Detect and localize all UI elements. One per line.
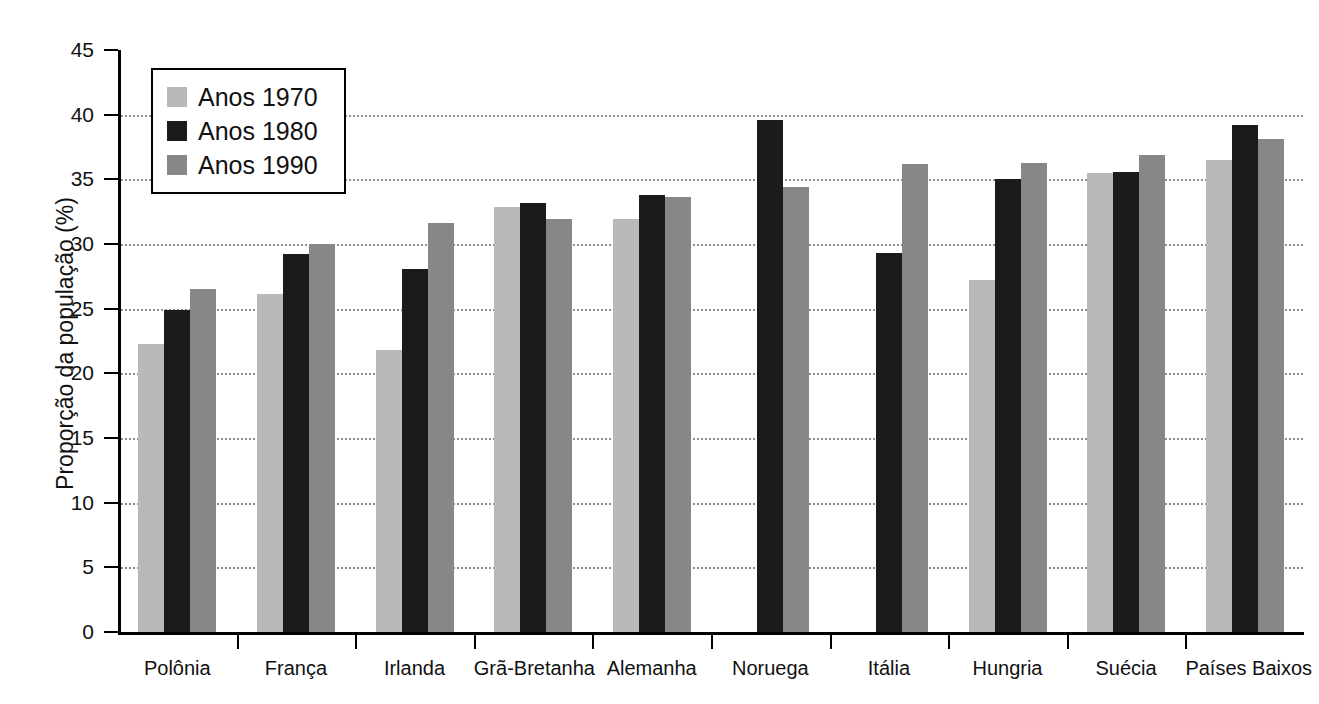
legend-item: Anos 1990: [167, 148, 318, 182]
x-axis-tick: [1067, 635, 1069, 649]
legend-label: Anos 1980: [198, 119, 318, 144]
legend-label: Anos 1970: [198, 85, 318, 110]
bar: [639, 195, 665, 632]
bar: [969, 280, 995, 632]
bar: [257, 294, 283, 632]
y-axis-tick-label: 15: [48, 427, 94, 448]
y-axis-tick: [104, 502, 118, 504]
bar: [138, 344, 164, 632]
bar: [1258, 139, 1284, 632]
x-axis-tick: [830, 635, 832, 649]
x-axis-label: Países Baixos: [1185, 657, 1304, 679]
bar: [309, 244, 335, 632]
x-axis-label: Suécia: [1067, 657, 1186, 679]
y-axis-tick: [104, 372, 118, 374]
y-axis-title: Proporção da população (%): [52, 64, 79, 624]
bar: [757, 120, 783, 632]
x-axis-label: Noruega: [711, 657, 830, 679]
x-axis-tick: [1185, 635, 1187, 649]
x-axis-tick: [237, 635, 239, 649]
bar: [665, 197, 691, 632]
bar: [428, 223, 454, 632]
y-axis-tick-label: 45: [48, 39, 94, 60]
bar: [1139, 155, 1165, 632]
legend-item: Anos 1970: [167, 80, 318, 114]
x-axis-tick: [355, 635, 357, 649]
y-axis-tick-label: 0: [48, 621, 94, 642]
y-axis-tick: [104, 437, 118, 439]
y-axis-tick-label: 35: [48, 168, 94, 189]
x-axis-tick: [948, 635, 950, 649]
bar: [494, 207, 520, 633]
bar: [1206, 160, 1232, 632]
x-axis-label: Irlanda: [355, 657, 474, 679]
bar: [613, 219, 639, 632]
x-axis-tick: [474, 635, 476, 649]
chart-legend: Anos 1970Anos 1980Anos 1990: [151, 68, 346, 194]
bar: [902, 164, 928, 632]
bar: [1087, 173, 1113, 632]
bar: [876, 253, 902, 632]
x-axis-tick: [711, 635, 713, 649]
y-axis-tick-label: 10: [48, 492, 94, 513]
x-axis-label: Alemanha: [592, 657, 711, 679]
bar: [1021, 163, 1047, 632]
bar: [283, 254, 309, 632]
y-axis-tick: [104, 243, 118, 245]
bar: [190, 289, 216, 632]
bar: [376, 350, 402, 632]
bar: [402, 269, 428, 632]
bar: [1232, 125, 1258, 632]
x-axis-tick: [592, 635, 594, 649]
y-axis-tick: [104, 631, 118, 633]
bar: [1113, 172, 1139, 632]
x-axis-label: França: [237, 657, 356, 679]
x-axis-label: Polônia: [118, 657, 237, 679]
bar-chart: Proporção da população (%) 0510152025303…: [0, 0, 1319, 704]
y-axis-tick-label: 25: [48, 298, 94, 319]
bar: [546, 219, 572, 632]
legend-swatch-icon: [167, 121, 187, 141]
y-axis-tick: [104, 308, 118, 310]
y-axis-tick: [104, 114, 118, 116]
bar: [783, 187, 809, 632]
y-axis-tick: [104, 566, 118, 568]
legend-label: Anos 1990: [198, 153, 318, 178]
bar: [995, 179, 1021, 632]
x-axis-label: Hungria: [948, 657, 1067, 679]
legend-swatch-icon: [167, 155, 187, 175]
y-axis-tick-label: 20: [48, 362, 94, 383]
y-axis-tick-label: 5: [48, 556, 94, 577]
bar: [520, 203, 546, 632]
x-axis-label: Itália: [830, 657, 949, 679]
legend-item: Anos 1980: [167, 114, 318, 148]
x-axis-label: Grã-Bretanha: [474, 657, 593, 679]
y-axis-tick: [104, 178, 118, 180]
y-axis-tick-label: 30: [48, 233, 94, 254]
bar: [164, 310, 190, 632]
legend-swatch-icon: [167, 87, 187, 107]
y-axis-tick-label: 40: [48, 104, 94, 125]
y-axis-tick: [104, 49, 118, 51]
